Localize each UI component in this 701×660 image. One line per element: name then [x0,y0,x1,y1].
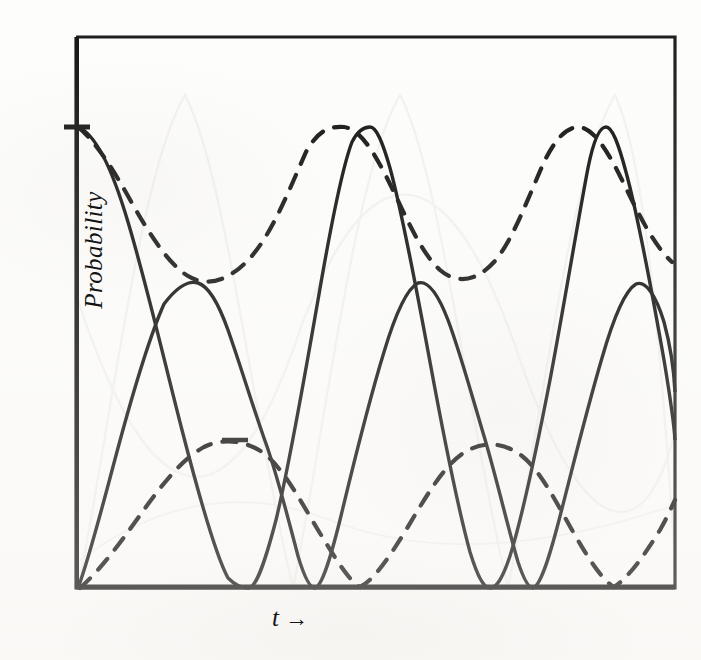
series-p1-solid-slow [78,127,675,588]
x-axis-arrow-icon: → [285,606,309,631]
series-p4-dashed-lower [80,441,675,588]
probability-plot [0,0,701,660]
page-bleed-through-ghost [78,95,675,588]
y-axis-label: Probability [80,170,108,330]
x-axis-label: t→ [272,604,309,632]
x-axis-label-symbol: t [272,604,280,631]
series-p2-solid-fast [78,282,675,588]
figure-container: Probability t→ [0,0,701,660]
plot-frame [76,37,675,588]
